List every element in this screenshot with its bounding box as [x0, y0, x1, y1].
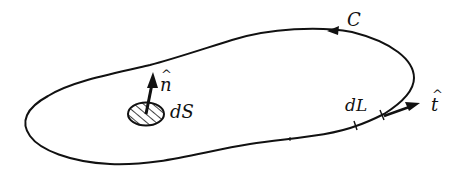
curve-direction-arrow-icon [327, 26, 339, 35]
normal-label-n: n [160, 74, 172, 95]
tangent-label-t: t [431, 94, 439, 115]
tangent-arrowhead-icon [405, 102, 420, 111]
surface-element-label-ds: dS [170, 101, 194, 122]
stokes-theorem-diagram: C ^ n dS dL ^ t [0, 0, 462, 171]
diagram-canvas: C ^ n dS dL ^ t [0, 0, 462, 171]
curve-label-c: C [347, 9, 361, 30]
line-element-label-dl: dL [345, 95, 367, 115]
normal-arrowhead-icon [147, 72, 158, 88]
